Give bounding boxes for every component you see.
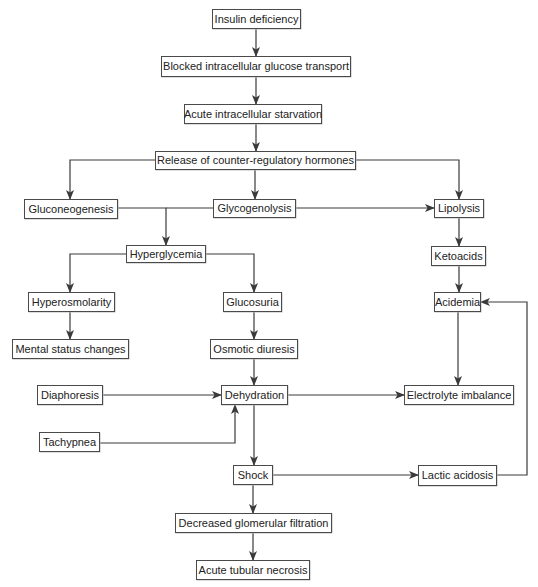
node-label: Glycogenolysis — [218, 203, 292, 214]
node-label: Electrolyte imbalance — [407, 390, 512, 401]
node-counter-regulatory: Release of counter-regulatory hormones — [155, 151, 356, 170]
node-label: Ketoacids — [434, 251, 482, 262]
node-label: Gluconeogenesis — [28, 204, 113, 215]
node-label: Hyperosmolarity — [32, 297, 111, 308]
edge-hyperglycemia-to-hyperosmolarity — [70, 254, 126, 292]
node-label: Diaphoresis — [41, 390, 99, 401]
node-label: Decreased glomerular filtration — [179, 518, 329, 529]
node-hyperglycemia: Hyperglycemia — [126, 245, 206, 263]
node-acute-tubular-necrosis: Acute tubular necrosis — [196, 560, 310, 580]
node-ketoacids: Ketoacids — [431, 246, 486, 266]
node-dehydration: Dehydration — [221, 385, 288, 405]
node-label: Dehydration — [225, 390, 284, 401]
node-label: Release of counter-regulatory hormones — [157, 155, 354, 166]
node-glucosuria: Glucosuria — [223, 292, 282, 312]
edge-counter-regulatory-to-lipolysis — [356, 160, 459, 199]
node-label: Insulin deficiency — [215, 14, 299, 25]
node-electrolyte-imbalance: Electrolyte imbalance — [404, 385, 514, 405]
node-diaphoresis: Diaphoresis — [37, 385, 103, 405]
edge-hyperglycemia-to-glucosuria — [206, 254, 254, 292]
node-blocked-transport: Blocked intracellular glucose transport — [161, 56, 351, 77]
node-gluconeogenesis: Gluconeogenesis — [24, 199, 118, 219]
node-label: Acute tubular necrosis — [199, 565, 308, 576]
node-label: Hyperglycemia — [130, 249, 203, 260]
node-osmotic-diuresis: Osmotic diuresis — [210, 339, 298, 359]
edge-gluconeogenesis-to-hyperglycemia — [118, 208, 166, 245]
node-shock: Shock — [233, 465, 273, 485]
node-acidemia: Acidemia — [434, 292, 481, 312]
node-label: Lipolysis — [438, 203, 480, 214]
node-acute-starvation: Acute intracellular starvation — [184, 104, 322, 124]
node-decreased-gfr: Decreased glomerular filtration — [175, 513, 332, 533]
node-glycogenolysis: Glycogenolysis — [213, 199, 296, 218]
node-label: Osmotic diuresis — [213, 344, 294, 355]
node-label: Blocked intracellular glucose transport — [163, 61, 349, 72]
node-label: Acidemia — [435, 297, 480, 308]
edge-tachypnea-to-dehydration — [100, 405, 235, 443]
edge-counter-regulatory-to-gluconeogenesis — [70, 160, 155, 199]
node-mental-status: Mental status changes — [12, 339, 129, 359]
flowchart-canvas: Insulin deficiencyBlocked intracellular … — [0, 0, 538, 587]
node-lactic-acidosis: Lactic acidosis — [418, 465, 497, 486]
node-hyperosmolarity: Hyperosmolarity — [28, 292, 115, 312]
node-insulin-deficiency: Insulin deficiency — [212, 9, 301, 29]
node-lipolysis: Lipolysis — [434, 199, 484, 218]
node-label: Shock — [238, 470, 269, 481]
node-label: Mental status changes — [15, 344, 125, 355]
node-tachypnea: Tachypnea — [39, 432, 100, 452]
node-label: Tachypnea — [43, 437, 96, 448]
node-label: Acute intracellular starvation — [184, 109, 322, 120]
node-label: Glucosuria — [226, 297, 279, 308]
node-label: Lactic acidosis — [422, 470, 494, 481]
